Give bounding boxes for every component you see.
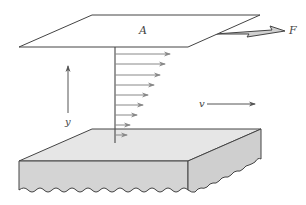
fixed-base-block: [19, 129, 261, 192]
velocity-label: v: [199, 98, 205, 109]
shear-flow-diagram: A F y v: [0, 0, 306, 205]
height-label: y: [64, 116, 71, 127]
base-front-face: [19, 161, 188, 192]
velocity-profile-arrows: [115, 54, 170, 135]
area-label: A: [138, 24, 147, 37]
force-label: F: [288, 24, 297, 37]
